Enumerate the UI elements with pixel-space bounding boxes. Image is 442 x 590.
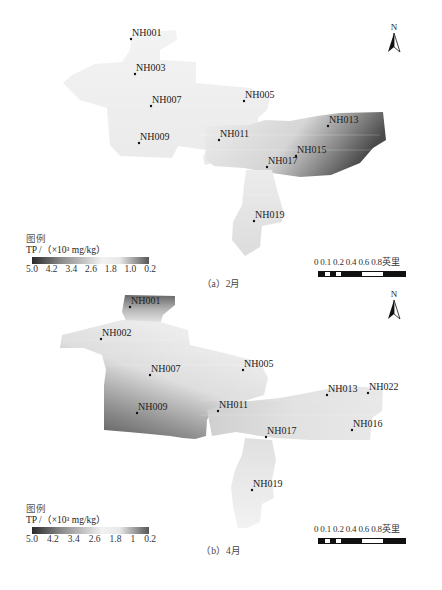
legend-title: 图例 [26, 504, 156, 515]
station-label: NH001 [131, 295, 160, 306]
station-label: NH002 [102, 327, 131, 338]
station-marker-icon [326, 394, 328, 396]
legend-tick-label: 3.4 [65, 264, 77, 275]
station-marker-icon [351, 429, 353, 431]
station-label: NH022 [369, 381, 398, 392]
station-marker-icon [218, 139, 220, 141]
station-marker-icon [150, 105, 152, 107]
north-arrow-feb: N [384, 22, 404, 56]
north-arrow-icon [386, 299, 402, 321]
station-marker-icon [100, 338, 102, 340]
station-label: NH005 [245, 89, 274, 100]
station-label: NH017 [267, 425, 296, 436]
station-marker-icon [242, 369, 244, 371]
station-marker-icon [217, 410, 219, 412]
station-label: NH005 [244, 358, 273, 369]
station-marker-icon [367, 392, 369, 394]
station-marker-icon [136, 412, 138, 414]
north-arrow-icon [386, 32, 402, 54]
map-panel-feb: NH001NH003NH007NH005NH009NH011NH013NH015… [0, 0, 442, 290]
legend-feb: 图例 TP /（×10³ mg/kg） 5.04.23.42.61.81.00.… [26, 234, 156, 275]
station-label: NH011 [220, 128, 249, 139]
station-marker-icon [129, 306, 131, 308]
station-marker-icon [134, 73, 136, 75]
station-label: NH011 [219, 399, 248, 410]
station-label: NH019 [253, 478, 282, 489]
north-label: N [384, 289, 404, 299]
caption-apr: （b）4月 [0, 543, 442, 557]
legend-tick-label: 5.0 [26, 264, 38, 275]
station-marker-icon [265, 436, 267, 438]
station-marker-icon [130, 38, 132, 40]
station-label: NH003 [136, 62, 165, 73]
station-marker-icon [243, 100, 245, 102]
legend-unit: TP /（×10³ mg/kg） [26, 245, 156, 256]
scale-bar-feb: 0 0.1 0.2 0.4 0.6 0.8英里 [314, 255, 406, 277]
station-label: NH001 [132, 27, 161, 38]
legend-ticks: 5.04.23.42.61.81.00.2 [26, 264, 156, 275]
station-label: NH017 [268, 155, 297, 166]
map-panel-apr: NH001NH002NH007NH005NH009NH011NH013NH022… [0, 285, 442, 585]
legend-apr: 图例 TP /（×10³ mg/kg） 5.04.23.42.61.810.2 [26, 504, 156, 545]
legend-colorbar [32, 527, 149, 534]
legend-tick-label: 0.2 [144, 264, 156, 275]
station-label: NH019 [255, 209, 284, 220]
station-marker-icon [251, 489, 253, 491]
scale-bar-apr: 0 0.1 0.2 0.4 0.6 0.8英里 [314, 522, 406, 544]
station-label: NH013 [328, 383, 357, 394]
station-marker-icon [138, 142, 140, 144]
station-label: NH009 [140, 131, 169, 142]
north-arrow-apr: N [384, 289, 404, 323]
station-label: NH007 [151, 363, 180, 374]
legend-tick-label: 1.8 [105, 264, 117, 275]
station-label: NH013 [329, 114, 358, 125]
legend-tick-label: 1.0 [124, 264, 136, 275]
legend-colorbar [32, 257, 149, 264]
legend-title: 图例 [26, 234, 156, 245]
station-marker-icon [149, 374, 151, 376]
scale-values: 0 0.1 0.2 0.4 0.6 0.8英里 [314, 255, 406, 268]
station-label: NH007 [152, 94, 181, 105]
scale-values: 0 0.1 0.2 0.4 0.6 0.8英里 [314, 522, 406, 535]
legend-tick-label: 2.6 [85, 264, 97, 275]
station-label: NH009 [138, 401, 167, 412]
station-label: NH015 [297, 144, 326, 155]
legend-unit: TP /（×10³ mg/kg） [26, 515, 156, 526]
station-label: NH016 [353, 418, 382, 429]
north-label: N [384, 22, 404, 32]
station-marker-icon [266, 166, 268, 168]
station-marker-icon [253, 220, 255, 222]
legend-tick-label: 4.2 [46, 264, 58, 275]
station-marker-icon [327, 125, 329, 127]
